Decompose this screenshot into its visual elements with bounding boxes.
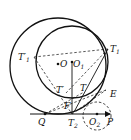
label-E: E <box>109 89 117 99</box>
dashed-T1prime-T1 <box>34 49 108 57</box>
label-O1: O1 <box>73 59 84 70</box>
point-Q <box>44 113 47 116</box>
label-T-prime: T′ <box>56 85 64 95</box>
label-T1-prime: T′1 <box>18 52 30 63</box>
geometry-figure: T1 T′1 O O1 T′ T E F Q T2 O2 P <box>0 0 131 140</box>
label-T: T <box>80 83 87 93</box>
label-O: O <box>60 59 68 69</box>
label-F: F <box>63 101 71 111</box>
label-T2: T2 <box>68 118 78 129</box>
label-O2: O2 <box>89 117 100 128</box>
label-T1: T1 <box>110 44 120 55</box>
label-P: P <box>106 117 114 127</box>
point-O <box>57 63 60 66</box>
label-Q: Q <box>38 117 46 127</box>
point-O2 <box>96 113 99 116</box>
diagram-canvas: T1 T′1 O O1 T′ T E F Q T2 O2 P <box>0 0 131 140</box>
